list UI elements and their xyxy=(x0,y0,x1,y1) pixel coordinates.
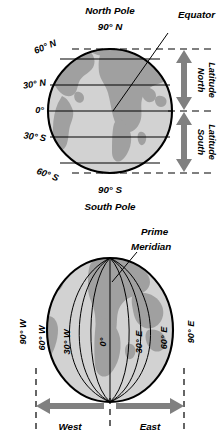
south-pole-label: South Pole xyxy=(84,201,136,212)
label-90w: 90° W xyxy=(18,318,28,344)
equator-label: Equator xyxy=(178,9,216,20)
south-latitude-arrow xyxy=(176,112,192,172)
label-30n: 30° N xyxy=(22,77,47,90)
label-60e: 60° E xyxy=(159,326,169,349)
label-0-lon: 0° xyxy=(98,337,108,346)
label-60w: 60° W xyxy=(37,324,47,350)
label-60n: 60° N xyxy=(33,38,58,56)
label-90e: 90° E xyxy=(186,320,196,343)
south-latitude-label-line1: South xyxy=(196,129,206,155)
longitude-diagram: Prime Meridian 90° W 60° W 30° W 0° 30° … xyxy=(0,220,222,433)
west-label: West xyxy=(58,421,82,432)
south-latitude-label-line2: Latitude xyxy=(207,124,217,160)
label-30s: 30° S xyxy=(23,130,48,143)
north-latitude-label-line1: North xyxy=(196,68,206,93)
prime-meridian-label-line2: Meridian xyxy=(131,241,171,252)
label-0-lat: 0° xyxy=(35,105,44,115)
east-label: East xyxy=(140,421,161,432)
label-30e: 30° E xyxy=(134,330,144,353)
north-pole-label: North Pole xyxy=(85,5,135,16)
label-90s: 90° S xyxy=(98,184,123,195)
north-latitude-arrow xyxy=(176,50,192,110)
label-30w: 30° W xyxy=(62,328,72,354)
prime-meridian-label-line1: Prime xyxy=(141,226,169,237)
latitude-diagram: North Pole 90° N Equator 60° N 30° N 0° … xyxy=(0,0,222,220)
label-60s: 60° S xyxy=(35,166,60,183)
label-90n: 90° N xyxy=(98,21,124,32)
globe-diagram-figure: North Pole 90° N Equator 60° N 30° N 0° … xyxy=(0,0,222,433)
north-latitude-label-line2: Latitude xyxy=(207,62,217,98)
land-north-america-limb xyxy=(38,272,64,293)
